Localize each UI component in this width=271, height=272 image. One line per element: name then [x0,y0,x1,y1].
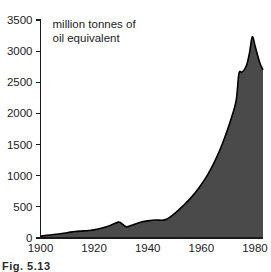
y-tick-label-1000: 1000 [7,170,33,182]
y-tick-label-3500: 3500 [7,14,33,26]
y-tick-label-2000: 2000 [7,107,33,119]
unit-label-line-2: oil equivalent [53,32,121,44]
figure-caption: Fig. 5.13 [2,260,51,272]
x-tick-label-1920: 1920 [81,242,107,254]
y-tick-label-500: 500 [13,201,32,213]
unit-label-line-1: million tonnes of [53,18,137,30]
x-tick-label-1900: 1900 [28,242,54,254]
y-tick-label-2500: 2500 [7,76,33,88]
energy-consumption-area-chart: 0500100015002000250030003500 19001920194… [0,0,271,272]
x-tick-label-1940: 1940 [135,242,161,254]
x-tick-label-1980: 1980 [242,242,268,254]
y-tick-label-1500: 1500 [7,139,33,151]
figure-container: 0500100015002000250030003500 19001920194… [0,0,271,272]
y-tick-label-3000: 3000 [7,45,33,57]
x-tick-label-1960: 1960 [189,242,215,254]
